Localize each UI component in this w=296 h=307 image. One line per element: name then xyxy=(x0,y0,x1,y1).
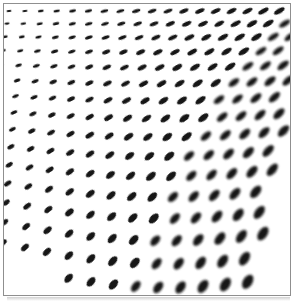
halftone-dot xyxy=(85,275,97,288)
halftone-dot xyxy=(5,161,14,169)
halftone-dot xyxy=(142,132,154,143)
halftone-dot xyxy=(271,45,285,57)
halftone-dot xyxy=(63,250,75,262)
halftone-dot xyxy=(254,45,267,56)
halftone-dot xyxy=(159,113,171,124)
halftone-dot xyxy=(132,8,141,14)
halftone-dot xyxy=(263,75,277,88)
halftone-dot xyxy=(85,230,97,242)
halftone-dot xyxy=(85,113,95,121)
halftone-dot xyxy=(168,211,182,225)
halftone-dot xyxy=(151,280,165,295)
halftone-dot xyxy=(165,170,178,183)
halftone-dot xyxy=(27,127,36,134)
halftone-dot xyxy=(48,95,57,102)
halftone-dot xyxy=(85,21,93,26)
halftone-dot xyxy=(85,96,95,104)
halftone-dot xyxy=(193,255,208,271)
halftone-dot xyxy=(144,170,157,182)
halftone-dot xyxy=(127,233,140,246)
halftone-dot xyxy=(105,190,117,201)
halftone-dot xyxy=(283,31,291,43)
halftone-dot xyxy=(10,109,18,115)
halftone-dot xyxy=(85,79,94,86)
halftone-dot xyxy=(69,9,76,13)
halftone-dot xyxy=(231,207,246,223)
halftone-dot xyxy=(135,48,145,56)
halftone-dot xyxy=(19,35,25,39)
halftone-dot xyxy=(64,187,75,197)
halftone-dot xyxy=(233,32,246,42)
halftone-dot xyxy=(163,8,173,15)
halftone-dot xyxy=(253,108,267,122)
halftone-dot xyxy=(105,169,117,180)
halftone-dot xyxy=(189,210,203,225)
halftone-dot xyxy=(4,238,8,247)
halftone-dot xyxy=(106,232,118,245)
halftone-dot xyxy=(181,20,192,28)
halftone-dot xyxy=(161,131,174,143)
halftone-dot xyxy=(218,276,234,293)
halftone-dot xyxy=(134,34,144,41)
halftone-dot xyxy=(66,95,75,102)
halftone-dot xyxy=(126,212,139,225)
halftone-dot xyxy=(85,252,97,264)
halftone-dot xyxy=(224,166,239,181)
halftone-dot xyxy=(120,79,130,87)
halftone-dot xyxy=(85,188,96,199)
halftone-dot xyxy=(163,150,176,162)
halftone-dot xyxy=(262,18,275,28)
halftone-dot xyxy=(85,35,93,41)
halftone-dot xyxy=(46,147,56,155)
halftone-dot xyxy=(24,182,34,191)
halftone-dot xyxy=(166,190,180,204)
halftone-dot xyxy=(102,64,112,71)
halftone-dot xyxy=(43,205,53,215)
halftone-dot xyxy=(231,93,245,106)
halftone-dot xyxy=(143,150,155,162)
artwork-frame xyxy=(3,3,291,296)
halftone-dot xyxy=(242,6,254,15)
halftone-dot xyxy=(191,78,203,89)
halftone-dot xyxy=(4,22,10,25)
halftone-dot xyxy=(69,21,77,26)
halftone-dot xyxy=(4,198,11,207)
halftone-dot xyxy=(152,48,163,56)
halftone-dot xyxy=(117,21,126,27)
halftone-dot xyxy=(107,278,120,292)
halftone-dot xyxy=(206,62,218,73)
halftone-dot xyxy=(156,79,167,88)
halftone-dot xyxy=(102,49,111,56)
halftone-dot xyxy=(42,225,53,235)
halftone-dot xyxy=(65,167,76,177)
halftone-dot xyxy=(197,112,210,124)
halftone-dot xyxy=(194,94,207,105)
halftone-dot xyxy=(147,8,156,14)
halftone-dot xyxy=(7,143,16,150)
halftone-dot xyxy=(248,184,263,200)
halftone-dot xyxy=(151,34,161,41)
halftone-dot xyxy=(118,34,127,40)
halftone-dot xyxy=(179,7,189,14)
halftone-dot xyxy=(101,21,109,26)
halftone-dot xyxy=(195,278,210,295)
halftone-dot xyxy=(49,79,57,85)
halftone-dot xyxy=(149,20,159,27)
halftone-dot xyxy=(133,21,143,27)
halftone-artwork xyxy=(0,0,296,307)
halftone-dot xyxy=(45,165,55,174)
halftone-dot xyxy=(15,63,22,68)
halftone-dot xyxy=(237,250,253,268)
halftone-dot xyxy=(85,9,93,13)
halftone-dot xyxy=(116,8,125,13)
halftone-dot xyxy=(36,22,43,26)
halftone-dot xyxy=(100,9,108,14)
halftone-dot xyxy=(212,230,227,246)
halftone-dot xyxy=(217,32,229,42)
halftone-dot xyxy=(44,185,54,194)
halftone-dot xyxy=(273,6,286,16)
halftone-dot xyxy=(85,131,96,140)
halftone-dot xyxy=(68,35,76,40)
halftone-dot xyxy=(85,169,96,179)
halftone-dot xyxy=(226,7,238,16)
